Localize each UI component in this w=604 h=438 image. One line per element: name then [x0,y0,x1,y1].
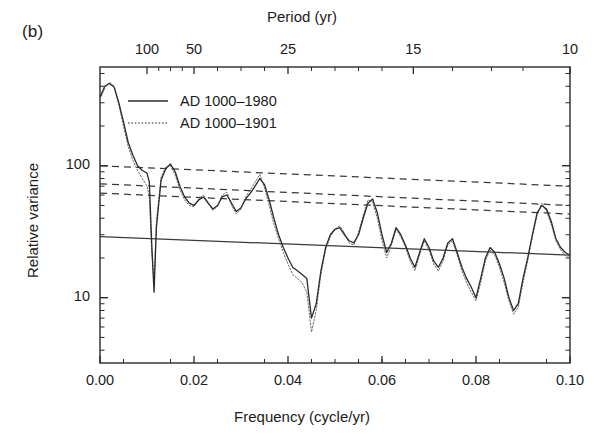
bottom-tick-label: 0.08 [451,372,501,388]
bottom-tick-label: 0.00 [75,372,125,388]
y-tick-label: 10 [44,288,90,304]
top-tick-label: 15 [388,41,438,57]
top-tick-label: 25 [263,41,313,57]
plot-frame [100,67,570,363]
top-tick-label: 50 [169,41,219,57]
reference-line-confidence-95 [100,184,570,206]
bottom-tick-label: 0.04 [263,372,313,388]
legend-label: AD 1000–1980 [180,93,277,109]
reference-line-confidence-99 [100,166,570,186]
bottom-tick-label: 0.10 [545,372,595,388]
series-ad-1000-1980 [100,83,570,318]
figure-panel-b: (b) Period (yr) Frequency (cycle/yr) Rel… [0,0,604,438]
legend-label: AD 1000–1901 [180,115,277,131]
reference-line-confidence-90 [100,193,570,214]
reference-line-red-noise-background [100,237,570,255]
series-ad-1000-1901 [100,82,570,332]
bottom-tick-label: 0.02 [169,372,219,388]
top-tick-label: 100 [122,41,172,57]
top-tick-label: 10 [545,41,595,57]
y-tick-label: 100 [44,156,90,172]
bottom-tick-label: 0.06 [357,372,407,388]
